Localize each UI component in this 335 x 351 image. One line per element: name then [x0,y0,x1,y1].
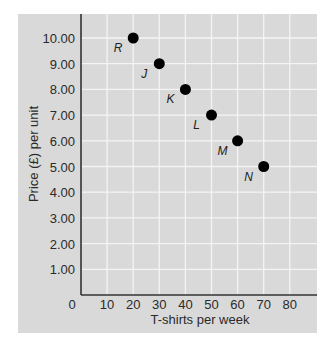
x-tick-label: 80 [283,297,297,312]
scatter-chart: 01020304050607080 1.002.003.004.005.006.… [0,0,335,351]
y-tick-label: 3.00 [50,211,75,226]
point-label: K [166,92,175,106]
point-label: M [218,144,228,158]
x-tick-label: 10 [100,297,114,312]
point-label: J [140,67,148,81]
data-point [154,58,165,69]
point-label: R [114,41,123,55]
x-tick-labels: 01020304050607080 [68,297,297,312]
y-tick-label: 7.00 [50,108,75,123]
x-tick-label: 50 [204,297,218,312]
y-tick-label: 6.00 [50,134,75,149]
y-tick-label: 9.00 [50,57,75,72]
data-point [128,33,139,44]
x-tick-label: 0 [68,297,75,312]
y-axis-title: Price (£) per unit [26,106,41,202]
x-tick-label: 60 [230,297,244,312]
data-point [232,135,243,146]
point-label: N [244,170,253,184]
y-tick-label: 2.00 [50,237,75,252]
x-axis-title: T-shirts per week [151,312,250,327]
x-tick-label: 20 [126,297,140,312]
y-tick-label: 4.00 [50,185,75,200]
data-point [180,84,191,95]
data-point [258,161,269,172]
y-tick-label: 1.00 [50,262,75,277]
x-tick-label: 30 [152,297,166,312]
x-tick-label: 70 [256,297,270,312]
data-point [206,110,217,121]
x-tick-label: 40 [178,297,192,312]
y-tick-label: 10.00 [42,31,75,46]
y-tick-label: 5.00 [50,160,75,175]
y-tick-label: 8.00 [50,82,75,97]
point-label: L [193,118,200,132]
